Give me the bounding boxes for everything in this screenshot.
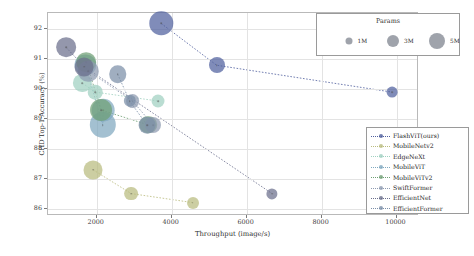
legend-item-label: MobileViTv2 (393, 175, 433, 181)
params-legend-title: Params (317, 17, 459, 25)
legend-item-mobilenetv2[interactable]: MobileNetv2 (371, 141, 464, 151)
legend-marker-icon (371, 132, 390, 140)
legend-marker-icon (371, 195, 390, 203)
data-point-center (160, 23, 162, 25)
series-legend: FlashViT(ours)MobileNetv2EdgeNeXtMobileV… (366, 127, 469, 214)
params-size-legend: Params 1M3M5M (316, 13, 460, 56)
legend-marker-icon (371, 184, 390, 192)
params-legend-bubble (387, 35, 399, 47)
series-line-mobilenetv2 (93, 170, 193, 203)
x-tick-label: 6000 (237, 218, 253, 226)
gridline-horizontal (48, 149, 417, 150)
y-tick-label: 88 (34, 144, 42, 152)
data-point-center (391, 91, 393, 93)
y-tick-label: 89 (34, 114, 42, 122)
legend-item-efficientnet[interactable]: EfficientNet (371, 193, 464, 203)
y-tick-label: 90 (34, 84, 42, 92)
x-tick-label: 10000 (385, 218, 405, 226)
y-tick-mark (44, 58, 47, 59)
legend-item-efficientformer[interactable]: EfficientFormer (371, 204, 464, 214)
legend-item-swiftformer[interactable]: SwiftFormer (371, 183, 464, 193)
data-point-center (100, 109, 102, 111)
data-point-center (84, 66, 86, 68)
data-point-center (146, 124, 148, 126)
data-point-center (117, 73, 119, 75)
y-tick-label: 92 (34, 24, 42, 32)
y-axis-label-wrapper: CHD Top-1 Accuracy (%) (2, 12, 16, 215)
params-legend-bubble (429, 33, 445, 49)
x-tick-label: 2000 (88, 218, 104, 226)
y-tick-mark (44, 208, 47, 209)
legend-item-mobilevitv2[interactable]: MobileViTv2 (371, 173, 464, 183)
gridline-horizontal (48, 179, 417, 180)
data-point-center (82, 82, 84, 84)
y-tick-mark (44, 178, 47, 179)
gridline-horizontal (48, 209, 417, 210)
legend-item-label: FlashViT(ours) (393, 133, 439, 139)
scatter-chart-figure: CHD Top-1 Accuracy (%) 86878889909192200… (0, 0, 474, 256)
x-tick-label: 4000 (163, 218, 179, 226)
gridline-vertical (172, 13, 173, 214)
params-legend-label: 5M (450, 38, 460, 44)
legend-item-edgenext[interactable]: EdgeNeXt (371, 152, 464, 162)
y-tick-mark (44, 148, 47, 149)
x-axis-label: Throughput (image/s) (47, 230, 418, 238)
data-point-center (192, 202, 194, 204)
y-tick-label: 87 (34, 174, 42, 182)
legend-item-flashvit-ours-[interactable]: FlashViT(ours) (371, 131, 464, 141)
legend-item-label: EfficientNet (393, 195, 431, 201)
legend-item-label: SwiftFormer (393, 185, 432, 191)
legend-marker-icon (371, 174, 390, 182)
data-point-center (102, 124, 104, 126)
legend-item-mobilevit[interactable]: MobileViT (371, 162, 464, 172)
gridline-horizontal (48, 89, 417, 90)
legend-marker-icon (371, 143, 390, 151)
params-legend-label: 1M (358, 38, 368, 44)
y-tick-label: 86 (34, 204, 42, 212)
data-point-center (94, 91, 96, 93)
data-point-center (65, 47, 67, 49)
legend-marker-icon (371, 153, 390, 161)
legend-marker-icon (371, 163, 390, 171)
y-tick-mark (44, 28, 47, 29)
gridline-vertical (247, 13, 248, 214)
gridline-horizontal (48, 59, 417, 60)
legend-marker-icon (371, 205, 390, 213)
y-tick-mark (44, 88, 47, 89)
y-tick-label: 91 (34, 54, 42, 62)
y-tick-mark (44, 118, 47, 119)
legend-item-label: MobileViT (393, 164, 425, 170)
legend-item-label: MobileNetv2 (393, 143, 434, 149)
data-point-center (157, 100, 159, 102)
legend-item-label: EdgeNeXt (393, 154, 425, 160)
data-point-center (92, 169, 94, 171)
params-legend-label: 3M (404, 38, 414, 44)
params-legend-bubble (346, 38, 353, 45)
data-point-center (129, 100, 131, 102)
data-point-center (130, 193, 132, 195)
x-tick-label: 8000 (312, 218, 328, 226)
data-point-center (216, 64, 218, 66)
legend-item-label: EfficientFormer (393, 206, 443, 212)
data-point-center (271, 193, 273, 195)
